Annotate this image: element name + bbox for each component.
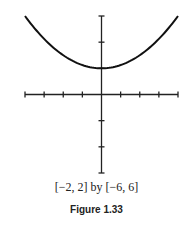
graph [0, 0, 193, 180]
window-caption: [−2, 2] by [−6, 6] [0, 180, 193, 195]
figure-label: Figure 1.33 [0, 204, 193, 215]
